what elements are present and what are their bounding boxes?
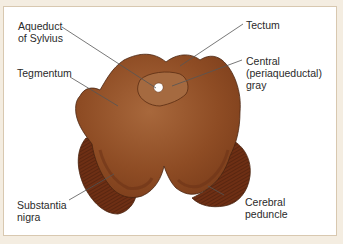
label-tectum: Tectum — [246, 19, 280, 31]
label-tegmentum: Tegmentum — [17, 67, 72, 79]
label-aqueduct-of-sylvius: Aqueduct of Sylvius — [18, 20, 63, 44]
label-substantia-nigra: Substantia nigra — [17, 199, 67, 223]
label-cerebral-peduncle: Cerebral peduncle — [245, 196, 288, 220]
label-central-gray: Central (periaqueductal) gray — [246, 55, 322, 91]
